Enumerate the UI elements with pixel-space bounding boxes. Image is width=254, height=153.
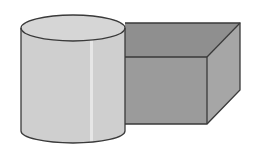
diagram-canvas [0,0,254,153]
cylinder [21,15,125,143]
box [125,23,240,124]
box-front-face [125,57,207,124]
cylinder-side [21,28,125,143]
